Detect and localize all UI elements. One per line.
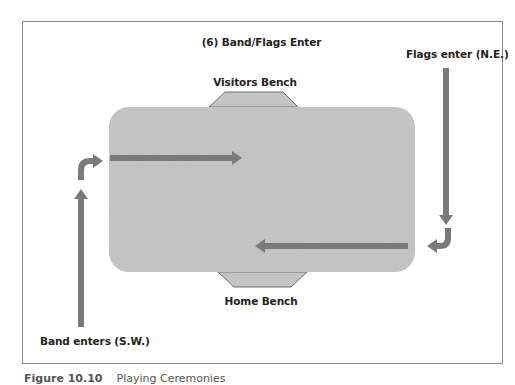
figure-caption: Figure 10.10Playing Ceremonies [24,372,225,385]
flags-down-arrow [439,68,453,225]
flags-enter-label: Flags enter (N.E.) [406,48,509,60]
flags-hook-arrow [427,228,448,253]
band-enters-label: Band enters (S.W.) [40,335,150,347]
diagram-title: (6) Band/Flags Enter [0,36,515,48]
home-bench-label: Home Bench [0,295,515,307]
figure-caption-text: Playing Ceremonies [117,372,226,385]
figure-number: Figure 10.10 [24,372,103,385]
home-bench-shape [218,272,307,287]
visitors-bench-shape [209,92,298,107]
band-hook-arrow [81,154,103,180]
visitors-bench-label: Visitors Bench [0,76,510,88]
